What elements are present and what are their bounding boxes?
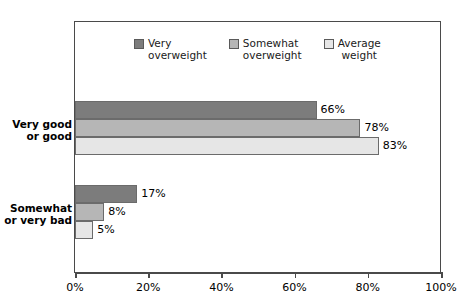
x-axis-tick-label: 60%: [282, 281, 306, 294]
category-label-line2: or good: [26, 130, 72, 142]
x-axis-tick: [368, 272, 370, 278]
x-axis-tick-label: 0%: [66, 281, 83, 294]
category-label-line1: Somewhat: [10, 202, 72, 214]
bar-value-label: 83%: [383, 137, 407, 155]
bar: [75, 101, 317, 119]
x-axis-tick-label: 100%: [425, 281, 456, 294]
x-axis-tick: [75, 272, 77, 278]
legend-swatch-icon: [229, 39, 239, 49]
bar-value-label: 17%: [141, 185, 165, 203]
bar-chart: Very overweight Somewhat overweight Aver…: [0, 0, 467, 305]
category-label-line1: Very good: [12, 118, 72, 130]
legend-swatch-icon: [324, 39, 334, 49]
bar-value-label: 8%: [108, 203, 125, 221]
x-axis-tick-label: 80%: [356, 281, 380, 294]
legend-swatch-icon: [134, 39, 144, 49]
bar: [75, 221, 93, 239]
legend-label-line2: overweight: [148, 50, 207, 62]
chart-legend: Very overweight Somewhat overweight Aver…: [134, 38, 381, 61]
legend-label-line1: Very: [148, 38, 207, 50]
legend-label-line2: weight: [338, 50, 381, 62]
x-axis-tick: [221, 272, 223, 278]
x-axis-tick: [441, 272, 443, 278]
category-label-very-good-or-good: Very good or good: [0, 118, 72, 142]
category-label-somewhat-or-very-bad: Somewhat or very bad: [0, 202, 72, 226]
x-axis-tick-label: 20%: [136, 281, 160, 294]
legend-item-somewhat-overweight: Somewhat overweight: [229, 38, 302, 61]
legend-label-line1: Average: [338, 38, 381, 50]
x-axis-tick: [148, 272, 150, 278]
chart-title: [0, 0, 467, 3]
x-axis-line: [75, 272, 441, 274]
bar: [75, 119, 360, 137]
legend-label-line2: overweight: [243, 50, 302, 62]
bar: [75, 203, 104, 221]
x-axis-tick: [295, 272, 297, 278]
legend-item-very-overweight: Very overweight: [134, 38, 207, 61]
x-axis-tick-label: 40%: [209, 281, 233, 294]
legend-label-line1: Somewhat: [243, 38, 302, 50]
legend-item-average-weight: Average weight: [324, 38, 381, 61]
bar-value-label: 5%: [97, 221, 114, 239]
bar: [75, 137, 379, 155]
category-label-line2: or very bad: [4, 214, 72, 226]
bar-value-label: 78%: [364, 119, 388, 137]
bar-value-label: 66%: [321, 101, 345, 119]
bar: [75, 185, 137, 203]
